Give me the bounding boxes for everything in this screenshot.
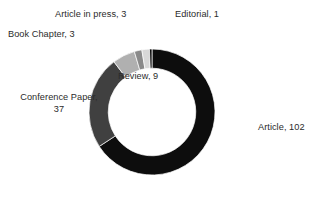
- slice-label-book-chapter: Book Chapter, 3: [8, 29, 75, 41]
- slice-label-article: Article, 102: [258, 122, 305, 134]
- slice-label-editorial: Editorial, 1: [175, 9, 219, 21]
- slice-label-conference-paper-line1: Conference: [20, 92, 68, 102]
- slice-label-conference-paper: Conference Paper, 37: [20, 92, 98, 115]
- donut-slice-group: [89, 49, 215, 175]
- donut-slice-editorial: [149, 49, 152, 68]
- slice-label-article-in-press: Article in press, 3: [55, 9, 126, 21]
- slice-label-review: Review, 9: [118, 71, 158, 83]
- donut-chart: Article in press, 3 Editorial, 1 Book Ch…: [0, 0, 325, 197]
